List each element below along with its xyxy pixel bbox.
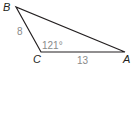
vertex-label-b: B (3, 1, 10, 13)
side-label-bc: 8 (17, 26, 23, 37)
vertex-label-a: A (122, 53, 130, 65)
triangle-diagram: B C A 8 13 121° (0, 0, 136, 113)
vertex-label-c: C (33, 53, 41, 65)
side-label-ca: 13 (77, 55, 89, 66)
angle-label-c: 121° (42, 40, 63, 51)
triangle-abc (16, 7, 125, 52)
